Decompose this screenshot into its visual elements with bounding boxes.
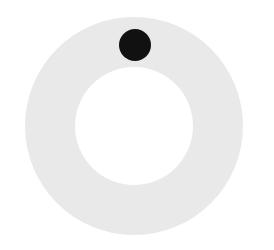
black-dot-marker <box>119 29 151 61</box>
ring-diagram <box>0 0 274 250</box>
